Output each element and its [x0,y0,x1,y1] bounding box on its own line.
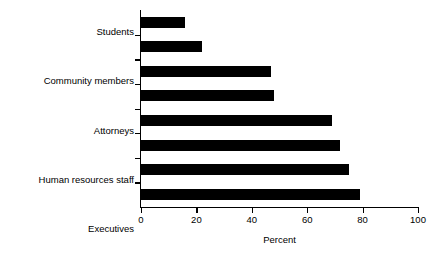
y-tick [135,35,141,36]
bar-row: Students [0,10,442,35]
bar-row: Attorneys [0,59,442,84]
y-tick [135,158,141,159]
x-tick [252,208,253,213]
x-tick [363,208,364,213]
x-tick [141,208,142,213]
x-axis-title: Percent [141,234,418,246]
category-label: Executives [0,223,134,234]
x-tick-label: 60 [287,214,327,226]
bar [141,90,274,101]
x-tick-label: 80 [343,214,383,226]
y-tick [135,59,141,60]
bar [141,115,332,126]
bar [141,41,202,52]
bar [141,140,340,151]
bar-row: Other program managers [0,158,442,183]
y-tick [135,182,141,183]
x-tick-label: 40 [232,214,272,226]
x-tick [418,208,419,213]
y-tick [135,133,141,134]
x-axis-line [140,207,419,208]
bar-row: Other industrial hygienists [0,133,442,158]
bar [141,66,271,77]
x-tick-label: 100 [398,214,438,226]
x-tick [196,208,197,213]
x-tick [307,208,308,213]
bar-row: Executives [0,109,442,134]
bar [141,17,185,28]
bar [141,164,349,175]
bar-row: Workers [0,182,442,207]
y-tick [135,109,141,110]
x-tick-label: 0 [121,214,161,226]
bar-row: Community members [0,35,442,60]
y-tick [135,84,141,85]
bar-row: Human resources staff [0,84,442,109]
bar-chart: StudentsCommunity membersAttorneysHuman … [0,0,442,261]
bar [141,189,360,200]
x-tick-label: 20 [176,214,216,226]
